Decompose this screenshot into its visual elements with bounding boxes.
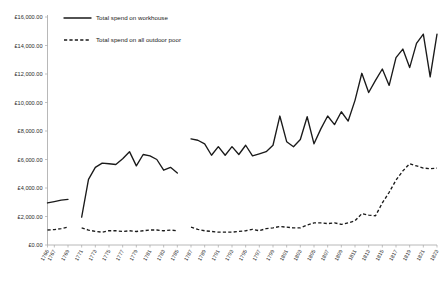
y-axis-group: £16,000.00£14,000.00£12,000.00£10,000.00…: [15, 14, 48, 248]
legend-label-2: Total spend on all outdoor poor: [96, 36, 181, 43]
x-tick-label: 1777: [114, 249, 125, 262]
y-tick-label: £16,000.00: [15, 14, 43, 20]
legend-label-1: Total spend on workhouse: [96, 14, 168, 21]
series-line-2: [191, 164, 437, 232]
x-tick-label: 1773: [87, 249, 98, 262]
x-tick-label: 1781: [142, 249, 153, 262]
x-tick-label: 1805: [306, 249, 317, 262]
y-tick-label: £2,000.00: [18, 214, 43, 220]
x-tick-label: 1807: [319, 249, 330, 262]
x-tick-label: 1771: [73, 249, 84, 262]
x-tick-label: 1821: [415, 249, 426, 262]
x-tick-label: 1813: [360, 249, 371, 262]
series-line-2: [48, 227, 69, 230]
series-line-1: [191, 34, 437, 156]
series-layer: [48, 34, 438, 232]
line-chart: £16,000.00£14,000.00£12,000.00£10,000.00…: [0, 0, 441, 287]
x-tick-label: 1823: [429, 249, 440, 262]
y-tick-label: £10,000.00: [15, 100, 43, 106]
y-tick-label: £14,000.00: [15, 43, 43, 49]
chart-canvas: £16,000.00£14,000.00£12,000.00£10,000.00…: [0, 0, 441, 287]
x-tick-label: 1787: [183, 249, 194, 262]
x-tick-label: 1801: [278, 249, 289, 262]
x-tick-label: 1783: [155, 249, 166, 262]
series-line-1: [82, 152, 178, 218]
x-tick-label: 1799: [265, 249, 276, 262]
x-tick-label: 1811: [347, 249, 358, 262]
y-tick-label: £6,000.00: [18, 157, 43, 163]
x-tick-label: 1803: [292, 249, 303, 262]
x-axis-group: 1766176717691771177317751777177917811783…: [39, 245, 439, 262]
chart-legend: Total spend on workhouseTotal spend on a…: [64, 14, 181, 43]
y-tick-label: £8,000.00: [18, 128, 43, 134]
x-tick-label: 1797: [251, 249, 262, 262]
x-tick-label: 1769: [60, 249, 71, 262]
x-tick-label: 1809: [333, 249, 344, 262]
x-tick-label: 1819: [401, 249, 412, 262]
series-line-2: [82, 228, 178, 232]
x-tick-label: 1817: [388, 249, 399, 262]
series-line-1: [48, 199, 69, 203]
y-axis-tick-labels: £16,000.00£14,000.00£12,000.00£10,000.00…: [15, 14, 43, 248]
y-tick-label: £12,000.00: [15, 71, 43, 77]
y-tick-label: £0.00: [29, 242, 43, 248]
x-tick-label: 1779: [128, 249, 139, 262]
x-tick-label: 1789: [196, 249, 207, 262]
x-tick-label: 1795: [237, 249, 248, 262]
x-tick-label: 1815: [374, 249, 385, 262]
x-tick-label: 1785: [169, 249, 180, 262]
x-axis-tick-labels: 1766176717691771177317751777177917811783…: [39, 249, 439, 262]
x-tick-label: 1793: [224, 249, 235, 262]
y-tick-label: £4,000.00: [18, 185, 43, 191]
x-tick-label: 1775: [101, 249, 112, 262]
x-tick-label: 1791: [210, 249, 221, 262]
